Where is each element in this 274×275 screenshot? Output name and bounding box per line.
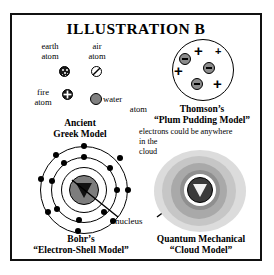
bohr-electron	[101, 209, 107, 215]
thomson-electron	[203, 62, 215, 74]
quantum-nucleus	[187, 177, 213, 203]
quantum-model-caption: Quantum Mechanical “Cloud Model”	[138, 234, 264, 256]
ancient-greek-model-caption: Ancient Greek Model	[20, 118, 140, 140]
thomson-proton: +	[215, 46, 221, 57]
air-atom-label: air atom	[75, 42, 119, 61]
bohr-electron	[49, 178, 55, 184]
water-atom-icon	[90, 93, 102, 105]
thomson-model-caption: Thomson’s “Plum Pudding Model”	[140, 104, 264, 126]
thomson-electron	[191, 78, 203, 90]
bohr-electron	[54, 206, 60, 212]
quantum-model-group	[152, 148, 248, 234]
bohr-nucleus	[69, 175, 99, 205]
bohr-electron	[76, 217, 82, 223]
thomson-sphere: + + + +	[172, 39, 234, 101]
bohr-electron	[45, 209, 51, 215]
air-atom-icon	[91, 66, 102, 77]
earth-atom-label: earth atom	[26, 42, 74, 61]
page-title: ILLUSTRATION B	[12, 20, 260, 38]
fire-atom-label: fire atom	[22, 88, 64, 107]
bohr-electron	[81, 143, 87, 149]
thomson-proton: +	[213, 76, 222, 91]
bohr-electron	[125, 187, 131, 193]
nucleus-label: nucleus	[115, 217, 143, 226]
bohr-electron	[61, 160, 67, 166]
bohr-electron	[107, 165, 113, 171]
bohr-electron	[53, 152, 59, 158]
bohr-model-caption: Bohr’s “Electron-Shell Model”	[22, 234, 140, 256]
bohr-electron	[81, 154, 87, 160]
fire-atom-icon	[62, 89, 73, 100]
earth-atom-icon	[59, 66, 70, 77]
thomson-proton: +	[194, 43, 203, 58]
bohr-electron	[38, 176, 44, 182]
bohr-electron	[114, 187, 120, 193]
illustration-frame: ILLUSTRATION B earth atom air atom	[10, 13, 262, 261]
thomson-proton: +	[174, 63, 183, 78]
bohr-electron	[117, 155, 123, 161]
